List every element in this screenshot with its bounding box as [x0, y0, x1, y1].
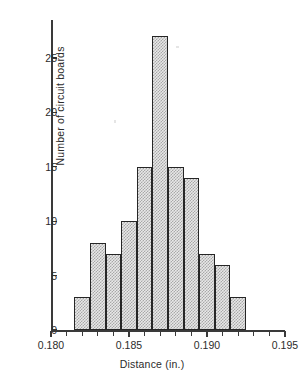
histogram-bar [184, 178, 200, 330]
histogram-bar [230, 297, 246, 330]
histogram-bar [215, 265, 231, 330]
histogram-bar [90, 243, 106, 330]
histogram-figure: Number of circuit boards 0510152025 0.18… [0, 0, 304, 379]
histogram-bar [168, 167, 184, 330]
histogram-bar [106, 254, 122, 330]
histogram-bar [74, 297, 90, 330]
scan-artifact [176, 46, 179, 48]
histogram-bar [152, 36, 168, 330]
histogram-bars [0, 0, 304, 379]
scan-artifact [114, 120, 116, 123]
histogram-bar [137, 167, 153, 330]
histogram-bar [199, 254, 215, 330]
histogram-bar [121, 221, 137, 330]
